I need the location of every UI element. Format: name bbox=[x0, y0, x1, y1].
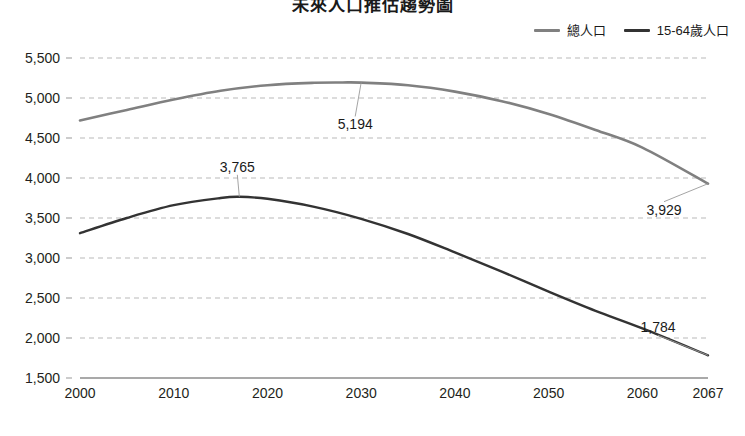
y-axis-tick-mark bbox=[66, 298, 72, 299]
legend-label-total-population: 總人口 bbox=[567, 24, 606, 37]
x-axis-tick-label: 2010 bbox=[158, 386, 189, 400]
data-label: 3,765 bbox=[220, 160, 255, 174]
data-label-leader-line bbox=[237, 175, 239, 197]
y-axis-tick-mark bbox=[66, 218, 72, 219]
chart-legend: 總人口 15-64歲人口 bbox=[534, 24, 729, 37]
x-axis: 20002010202020302040205020602067 bbox=[80, 386, 708, 410]
y-axis-tick-label: 1,500 bbox=[0, 371, 72, 385]
y-axis-tick-label: 5,000 bbox=[0, 91, 72, 105]
y-axis-tick-label: 5,500 bbox=[0, 51, 72, 65]
y-axis-tick-label: 3,500 bbox=[0, 211, 72, 225]
legend-swatch-working-age-population bbox=[624, 29, 650, 32]
chart-canvas bbox=[80, 58, 708, 378]
legend-item-working-age-population[interactable]: 15-64歲人口 bbox=[624, 24, 729, 37]
x-axis-tick-label: 2030 bbox=[346, 386, 377, 400]
y-axis-tick-mark bbox=[66, 378, 72, 379]
y-axis-tick-mark bbox=[66, 178, 72, 179]
legend-swatch-total-population bbox=[534, 29, 560, 32]
y-axis-tick-mark bbox=[66, 98, 72, 99]
x-axis-tick-label: 2040 bbox=[439, 386, 470, 400]
y-axis: 5,5005,0004,5004,0003,5003,0002,5002,000… bbox=[0, 58, 72, 378]
x-axis-tick-label: 2060 bbox=[627, 386, 658, 400]
y-axis-tick-mark bbox=[66, 58, 72, 59]
plot-area bbox=[80, 58, 708, 378]
data-label-leader-line bbox=[355, 82, 361, 116]
y-axis-tick-mark bbox=[66, 258, 72, 259]
data-label: 5,194 bbox=[338, 117, 373, 131]
y-axis-tick-label: 3,000 bbox=[0, 251, 72, 265]
data-label-leader-line bbox=[664, 184, 708, 202]
data-label: 1,784 bbox=[640, 320, 675, 334]
x-axis-tick-label: 2000 bbox=[64, 386, 95, 400]
legend-label-working-age-population: 15-64歲人口 bbox=[657, 24, 729, 37]
y-axis-tick-label: 2,500 bbox=[0, 291, 72, 305]
y-axis-tick-label: 2,000 bbox=[0, 331, 72, 345]
chart-title: 未來人口推估趨勢圖 bbox=[0, 0, 745, 16]
x-axis-tick-label: 2020 bbox=[252, 386, 283, 400]
y-axis-tick-label: 4,500 bbox=[0, 131, 72, 145]
y-axis-tick-label: 4,000 bbox=[0, 171, 72, 185]
x-axis-tick-label: 2067 bbox=[692, 386, 723, 400]
legend-item-total-population[interactable]: 總人口 bbox=[534, 24, 606, 37]
y-axis-tick-mark bbox=[66, 338, 72, 339]
data-label: 3,929 bbox=[646, 203, 681, 217]
x-axis-tick-label: 2050 bbox=[533, 386, 564, 400]
population-projection-chart: 未來人口推估趨勢圖 總人口 15-64歲人口 5,5005,0004,5004,… bbox=[0, 0, 745, 436]
series-line-working-age-population bbox=[80, 197, 708, 356]
y-axis-tick-mark bbox=[66, 138, 72, 139]
